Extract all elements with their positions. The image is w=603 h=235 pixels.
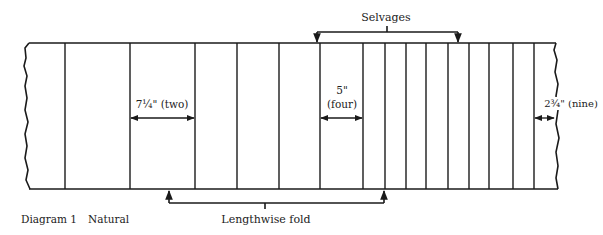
dimension-nine-label: 2¾" (nine) (544, 98, 598, 109)
fabric-outline (24, 43, 559, 189)
fabric-diagram: Selvages Lengthwise fold 7¼" (two) 5" (f… (0, 0, 603, 235)
dimension-four-count: (four) (327, 98, 357, 110)
selvages-label: Selvages (361, 11, 411, 24)
diagram-subtitle: Natural (88, 213, 130, 225)
lengthwise-fold-bracket (169, 191, 384, 209)
diagram-caption: Diagram 1 (21, 213, 77, 225)
dimension-two-label: 7¼" (two) (136, 98, 189, 110)
fold-lines (65, 43, 534, 189)
lengthwise-fold-label: Lengthwise fold (221, 213, 310, 226)
dimension-four-value: 5" (336, 84, 348, 96)
selvages-bracket (317, 26, 458, 42)
